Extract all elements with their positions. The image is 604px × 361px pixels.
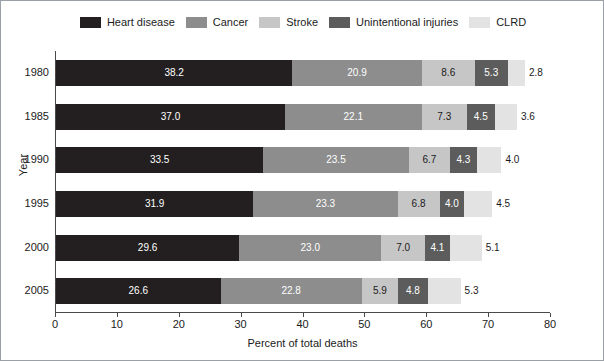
bar-segment[interactable]: 2.8: [508, 60, 525, 86]
bar-segment[interactable]: 26.6: [56, 278, 221, 304]
legend-swatch-icon: [80, 17, 101, 28]
plot-area: 38.220.98.65.32.837.022.17.34.53.633.523…: [55, 51, 550, 313]
legend-swatch-icon: [259, 17, 280, 28]
bar-value-label: 4.0: [505, 155, 519, 165]
legend-entry[interactable]: CLRD: [469, 17, 526, 28]
bar-value-label: 6.8: [412, 199, 426, 209]
legend-entry[interactable]: Unintentional injuries: [329, 17, 458, 28]
y-axis-title: Year: [17, 135, 29, 195]
x-tick-mark: [550, 313, 551, 317]
bar-segment[interactable]: 31.9: [56, 191, 253, 217]
bar-segment[interactable]: 37.0: [56, 104, 285, 130]
x-tick-mark: [488, 313, 489, 317]
bar-value-label: 38.2: [164, 68, 183, 78]
bar-value-label: 29.6: [138, 243, 157, 253]
y-tick-label: 1980: [3, 67, 49, 78]
bar-segment[interactable]: 4.8: [398, 278, 428, 304]
bar-value-label: 4.0: [445, 199, 459, 209]
legend-label: CLRD: [496, 17, 526, 28]
bar-value-label: 4.5: [474, 112, 488, 122]
bar-segment[interactable]: 23.3: [253, 191, 397, 217]
bar-value-label: 5.1: [486, 243, 500, 253]
bar-value-label: 4.1: [430, 243, 444, 253]
x-tick-mark: [241, 313, 242, 317]
bar-value-label: 26.6: [129, 286, 148, 296]
legend-swatch-icon: [469, 17, 490, 28]
bar-value-label: 8.6: [441, 68, 455, 78]
bar-segment[interactable]: 4.3: [450, 147, 477, 173]
bar-segment[interactable]: 5.1: [450, 235, 482, 261]
bar-segment[interactable]: 5.3: [428, 278, 461, 304]
legend-label: Heart disease: [107, 17, 175, 28]
x-tick-label: 80: [536, 319, 564, 330]
bar-segment[interactable]: 4.1: [425, 235, 450, 261]
legend-entry[interactable]: Heart disease: [80, 17, 175, 28]
bar-value-label: 4.8: [406, 286, 420, 296]
bar-row: 37.022.17.34.53.6: [56, 104, 550, 130]
legend-swatch-icon: [186, 17, 207, 28]
bar-value-label: 22.8: [281, 286, 300, 296]
stacked-bar: 29.623.07.04.15.1: [56, 235, 482, 261]
x-tick-mark: [364, 313, 365, 317]
x-tick-label: 20: [165, 319, 193, 330]
bar-segment[interactable]: 6.7: [409, 147, 450, 173]
bar-value-label: 7.0: [396, 243, 410, 253]
x-tick-mark: [303, 313, 304, 317]
bar-segment[interactable]: 20.9: [292, 60, 421, 86]
bar-segment[interactable]: 4.5: [464, 191, 492, 217]
bar-row: 26.622.85.94.85.3: [56, 278, 550, 304]
x-tick-label: 0: [41, 319, 69, 330]
bar-segment[interactable]: 5.9: [362, 278, 399, 304]
bar-segment[interactable]: 38.2: [56, 60, 292, 86]
bar-row: 31.923.36.84.04.5: [56, 191, 550, 217]
bar-segment[interactable]: 4.0: [477, 147, 502, 173]
bar-segment[interactable]: 4.5: [467, 104, 495, 130]
x-tick-label: 30: [227, 319, 255, 330]
bar-value-label: 5.9: [373, 286, 387, 296]
stacked-bar: 37.022.17.34.53.6: [56, 104, 517, 130]
x-axis-title: Percent of total deaths: [55, 337, 550, 349]
bar-segment[interactable]: 22.8: [221, 278, 362, 304]
bar-value-label: 22.1: [344, 112, 363, 122]
bar-segment[interactable]: 22.1: [285, 104, 422, 130]
x-tick-label: 40: [289, 319, 317, 330]
x-axis-ticks: 01020304050607080: [55, 313, 550, 335]
bar-value-label: 23.0: [301, 243, 320, 253]
x-tick-label: 70: [474, 319, 502, 330]
bar-segment[interactable]: 7.0: [381, 235, 424, 261]
bar-value-label: 4.3: [456, 155, 470, 165]
bar-segment[interactable]: 4.0: [440, 191, 465, 217]
bar-value-label: 20.9: [347, 68, 366, 78]
legend-label: Unintentional injuries: [356, 17, 458, 28]
bar-segment[interactable]: 5.3: [475, 60, 508, 86]
y-tick-label: 2005: [3, 285, 49, 296]
bar-row: 33.523.56.74.34.0: [56, 147, 550, 173]
bar-segment[interactable]: 33.5: [56, 147, 263, 173]
x-tick-label: 50: [350, 319, 378, 330]
chart-legend: Heart diseaseCancerStrokeUnintentional i…: [1, 10, 604, 34]
bar-segment[interactable]: 6.8: [398, 191, 440, 217]
bar-value-label: 7.3: [437, 112, 451, 122]
legend-swatch-icon: [329, 17, 350, 28]
bar-segment[interactable]: 29.6: [56, 235, 239, 261]
stacked-bar: 33.523.56.74.34.0: [56, 147, 501, 173]
bars-layer: 38.220.98.65.32.837.022.17.34.53.633.523…: [56, 51, 550, 312]
y-tick-label: 2000: [3, 242, 49, 253]
x-tick-label: 60: [412, 319, 440, 330]
x-tick-mark: [426, 313, 427, 317]
legend-entry[interactable]: Stroke: [259, 17, 318, 28]
bar-segment[interactable]: 23.0: [239, 235, 381, 261]
stacked-bar: 31.923.36.84.04.5: [56, 191, 492, 217]
bar-segment[interactable]: 8.6: [422, 60, 475, 86]
bar-value-label: 23.5: [326, 155, 345, 165]
stacked-bar: 26.622.85.94.85.3: [56, 278, 461, 304]
bar-segment[interactable]: 23.5: [263, 147, 408, 173]
bar-segment[interactable]: 7.3: [422, 104, 467, 130]
legend-entry[interactable]: Cancer: [186, 17, 248, 28]
x-tick-mark: [55, 313, 56, 317]
stacked-bar-chart: Heart diseaseCancerStrokeUnintentional i…: [0, 0, 604, 361]
bar-value-label: 23.3: [316, 199, 335, 209]
bar-segment[interactable]: 3.6: [495, 104, 517, 130]
bar-row: 38.220.98.65.32.8: [56, 60, 550, 86]
stacked-bar: 38.220.98.65.32.8: [56, 60, 525, 86]
